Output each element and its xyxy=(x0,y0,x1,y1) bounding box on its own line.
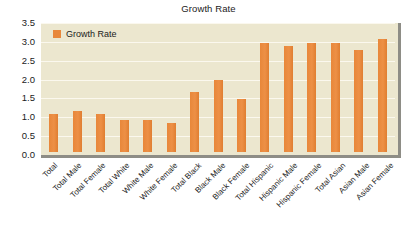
bar[interactable] xyxy=(120,120,129,152)
x-axis-slot: Total Female xyxy=(89,159,113,231)
y-axis-tick-label: 1.0 xyxy=(22,113,35,123)
bar-slot xyxy=(42,23,65,152)
bar[interactable] xyxy=(237,99,246,152)
bar-slot xyxy=(300,23,323,152)
bar-slot xyxy=(347,23,370,152)
x-axis-slot: Total Black xyxy=(185,159,209,231)
bar[interactable] xyxy=(331,43,340,152)
bar-slot xyxy=(371,23,394,152)
bar-slot xyxy=(206,23,229,152)
plot-inner xyxy=(41,23,395,152)
bar[interactable] xyxy=(354,50,363,152)
bar[interactable] xyxy=(284,46,293,152)
plot-area xyxy=(41,23,401,158)
bar[interactable] xyxy=(378,39,387,152)
bar-slot xyxy=(230,23,253,152)
bar-slot xyxy=(159,23,182,152)
y-axis-tick-label: 1.5 xyxy=(22,94,35,104)
x-axis: TotalTotal MaleTotal FemaleTotal WhiteWh… xyxy=(41,159,401,231)
bar[interactable] xyxy=(260,43,269,152)
bar-slot xyxy=(277,23,300,152)
y-axis: 0.00.51.01.52.02.53.03.5 xyxy=(0,23,38,158)
x-axis-slot: Hispanic Female xyxy=(305,159,329,231)
bar[interactable] xyxy=(307,43,316,152)
bar[interactable] xyxy=(214,80,223,152)
y-axis-tick-label: 3.5 xyxy=(22,18,35,28)
legend-label-growth-rate: Growth Rate xyxy=(66,29,117,39)
y-axis-tick-label: 0.0 xyxy=(22,150,35,160)
y-axis-tick-label: 3.0 xyxy=(22,37,35,47)
bar[interactable] xyxy=(190,92,199,152)
bar[interactable] xyxy=(73,111,82,152)
x-axis-slot: Total White xyxy=(113,159,137,231)
bar[interactable] xyxy=(49,114,58,152)
y-axis-tick-label: 0.5 xyxy=(22,131,35,141)
bar[interactable] xyxy=(167,123,176,152)
x-axis-slot: White Female xyxy=(161,159,185,231)
bar-slot xyxy=(253,23,276,152)
bar[interactable] xyxy=(143,120,152,152)
y-axis-tick-label: 2.5 xyxy=(22,56,35,66)
x-axis-slot: Asian Female xyxy=(377,159,401,231)
bar-slot xyxy=(136,23,159,152)
growth-rate-bar-chart: Growth Rate 0.00.51.01.52.02.53.03.5 Gro… xyxy=(0,0,417,231)
x-axis-slot: Total xyxy=(41,159,65,231)
chart-title: Growth Rate xyxy=(0,3,417,14)
bars-layer xyxy=(41,23,395,152)
bar-slot xyxy=(112,23,135,152)
y-axis-tick-label: 2.0 xyxy=(22,75,35,85)
x-axis-slot: Total Asian xyxy=(329,159,353,231)
bar-slot xyxy=(65,23,88,152)
bar-slot xyxy=(89,23,112,152)
x-axis-tick-label: Total xyxy=(41,161,59,179)
bar-slot xyxy=(324,23,347,152)
legend-swatch-growth-rate xyxy=(53,30,61,38)
bar-slot xyxy=(183,23,206,152)
bar[interactable] xyxy=(96,114,105,152)
chart-legend: Growth Rate xyxy=(53,29,117,39)
